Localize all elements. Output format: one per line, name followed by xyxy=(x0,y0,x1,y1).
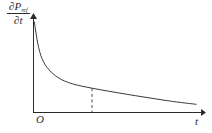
decay-curve-path xyxy=(34,22,196,105)
fraction-denominator: ∂t xyxy=(7,15,30,26)
numerator-symbol: ∂P xyxy=(9,0,21,12)
y-axis-label: ∂Pref ∂t xyxy=(7,1,30,26)
y-axis-arrow-icon xyxy=(30,13,37,19)
x-axis-arrow-icon xyxy=(201,109,206,116)
origin-label: O xyxy=(36,114,44,125)
partial-derivative-fraction: ∂Pref ∂t xyxy=(7,1,30,26)
numerator-subscript: ref xyxy=(21,7,27,13)
x-axis-label: t xyxy=(195,116,198,127)
fraction-numerator: ∂Pref xyxy=(7,1,30,12)
plot-area xyxy=(0,0,212,133)
decay-curve-figure: ∂Pref ∂t O t xyxy=(0,0,212,133)
